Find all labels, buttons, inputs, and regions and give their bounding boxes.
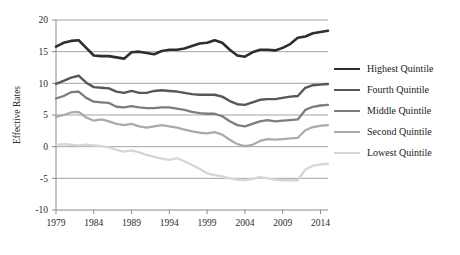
series-line	[56, 76, 328, 105]
y-tick-label: 0	[43, 142, 48, 152]
y-tick-label: 15	[39, 47, 49, 57]
legend-item-label: Middle Quintile	[367, 105, 431, 116]
y-tick-label: -5	[40, 174, 48, 184]
x-tick-label: 1999	[198, 218, 217, 228]
legend-swatch-icon	[334, 152, 360, 154]
legend-item[interactable]: Second Quintile	[334, 121, 458, 142]
x-tick-label: 2004	[235, 218, 254, 228]
series-line	[56, 31, 328, 59]
legend-item-label: Fourth Quintile	[367, 84, 429, 95]
x-tick-label: 2009	[273, 218, 292, 228]
legend-swatch-icon	[334, 89, 360, 91]
x-tick-label: 1994	[160, 218, 179, 228]
series-line	[56, 144, 328, 180]
legend-item[interactable]: Middle Quintile	[334, 100, 458, 121]
series-line	[56, 112, 328, 146]
y-axis-ticks: 20151050-5-10	[35, 15, 56, 215]
legend-item[interactable]: Highest Quintile	[334, 58, 458, 79]
chart-figure: 20151050-5-10 19791984198919941999200420…	[0, 0, 460, 255]
legend-item[interactable]: Fourth Quintile	[334, 79, 458, 100]
legend-item-label: Highest Quintile	[367, 63, 433, 74]
legend-item-label: Second Quintile	[367, 126, 432, 137]
x-axis-ticks: 19791984198919941999200420092014	[47, 210, 331, 228]
legend-swatch-icon	[334, 68, 360, 70]
y-tick-label: -10	[35, 205, 48, 215]
legend-item[interactable]: Lowest Quintile	[334, 142, 458, 163]
y-tick-label: 5	[43, 110, 48, 120]
series-lines	[56, 31, 328, 180]
y-axis-label: Effective Rates	[12, 86, 22, 144]
gridlines	[56, 20, 328, 178]
chart-legend: Highest QuintileFourth QuintileMiddle Qu…	[334, 58, 458, 163]
legend-swatch-icon	[334, 131, 360, 133]
legend-swatch-icon	[334, 110, 360, 112]
x-tick-label: 1984	[84, 218, 103, 228]
x-tick-label: 1979	[47, 218, 66, 228]
y-tick-label: 20	[39, 15, 49, 25]
legend-item-label: Lowest Quintile	[367, 147, 432, 158]
x-tick-label: 1989	[122, 218, 141, 228]
y-tick-label: 10	[39, 79, 49, 89]
x-tick-label: 2014	[311, 218, 330, 228]
